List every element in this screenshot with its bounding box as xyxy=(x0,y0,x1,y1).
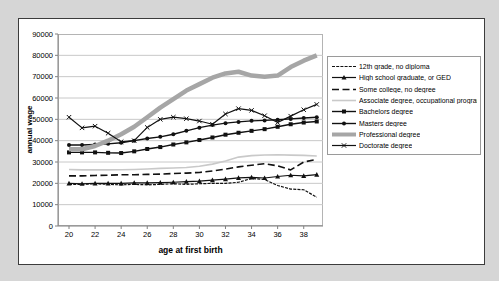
data-point-marker xyxy=(197,126,201,130)
legend-line-icon xyxy=(332,141,356,150)
data-point-marker xyxy=(184,129,188,133)
data-point-marker xyxy=(342,121,346,125)
legend-item-doctorate-degree: Doctorate degree xyxy=(332,140,477,151)
data-point-marker xyxy=(80,143,84,147)
chart-legend: 12th grade, no diplomaHigh school gradua… xyxy=(327,56,481,155)
data-point-marker xyxy=(315,115,319,119)
x-tick-label: 30 xyxy=(188,230,210,239)
data-point-marker xyxy=(302,116,306,120)
data-point-marker xyxy=(67,143,71,147)
data-point-marker xyxy=(237,120,241,124)
data-point-marker xyxy=(250,119,254,123)
legend-label: Masters degree xyxy=(359,120,407,127)
legend-line-icon xyxy=(332,119,356,128)
legend-item-some-college-no-degree: Some college, no degree xyxy=(332,84,477,95)
x-tick-label: 32 xyxy=(214,230,236,239)
y-tick-label: 90000 xyxy=(19,30,53,39)
data-point-marker xyxy=(158,145,162,149)
data-point-marker xyxy=(171,132,175,136)
data-point-marker xyxy=(263,127,267,131)
x-tick-label: 36 xyxy=(267,230,289,239)
data-point-marker xyxy=(223,121,227,125)
data-point-marker xyxy=(145,125,149,129)
x-tick-label: 20 xyxy=(58,230,80,239)
data-point-marker xyxy=(276,125,280,129)
data-point-marker xyxy=(132,149,136,153)
legend-item-bachelors-degree: Bachelors degree xyxy=(332,106,477,117)
x-tick-label: 38 xyxy=(293,230,315,239)
data-point-marker xyxy=(184,140,188,144)
legend-label: 12th grade, no diploma xyxy=(359,63,430,70)
data-point-marker xyxy=(145,137,149,141)
legend-item-masters-degree: Masters degree xyxy=(332,117,477,128)
data-point-marker xyxy=(223,133,227,137)
data-point-marker xyxy=(250,129,254,133)
y-tick-label: 80000 xyxy=(19,51,53,60)
legend-line-icon xyxy=(332,85,356,94)
data-point-marker xyxy=(237,131,241,135)
data-point-marker xyxy=(158,135,162,139)
legend-label: Some college, no degree xyxy=(359,86,436,93)
data-point-marker xyxy=(145,147,149,151)
data-point-marker xyxy=(315,119,319,123)
data-point-marker xyxy=(93,150,97,154)
y-tick-label: 0 xyxy=(19,222,53,231)
legend-line-icon xyxy=(332,62,356,71)
legend-item-professional-degree: Professional degree xyxy=(332,129,477,140)
data-point-marker xyxy=(302,121,306,125)
x-tick-label: 22 xyxy=(84,230,106,239)
y-tick-label: 50000 xyxy=(19,115,53,124)
legend-label: Associate degree, occupational program xyxy=(359,97,477,104)
legend-label: Professional degree xyxy=(359,131,420,138)
data-point-marker xyxy=(119,151,123,155)
x-tick-label: 34 xyxy=(241,230,263,239)
legend-line-icon xyxy=(332,73,356,82)
chart-canvas: annual wage 0100002000030000400005000060… xyxy=(18,18,485,265)
legend-label: High school graduate, or GED xyxy=(359,74,451,81)
series-doctorate-degree xyxy=(67,102,319,144)
y-tick-label: 70000 xyxy=(19,72,53,81)
legend-label: Bachelors degree xyxy=(359,108,413,115)
series-bachelors-degree xyxy=(67,119,319,155)
data-point-marker xyxy=(106,151,110,155)
legend-label: Doctorate degree xyxy=(359,142,412,149)
legend-line-icon xyxy=(332,130,356,139)
legend-line-icon xyxy=(332,107,356,116)
data-point-marker xyxy=(197,138,201,142)
y-tick-label: 20000 xyxy=(19,179,53,188)
x-tick-label: 28 xyxy=(162,230,184,239)
data-point-marker xyxy=(67,115,71,119)
data-point-marker xyxy=(106,131,110,135)
y-tick-label: 10000 xyxy=(19,200,53,209)
plot-area xyxy=(58,34,323,226)
data-point-marker xyxy=(289,122,293,126)
legend-line-icon xyxy=(332,96,356,105)
x-tick-label: 26 xyxy=(136,230,158,239)
legend-item-high-school-graduate-or-ged: High school graduate, or GED xyxy=(332,72,477,83)
y-tick-label: 30000 xyxy=(19,158,53,167)
data-point-marker xyxy=(210,135,214,139)
y-tick-label: 40000 xyxy=(19,136,53,145)
legend-item-12th-grade-no-diploma: 12th grade, no diploma xyxy=(332,61,477,72)
x-axis-title: age at first birth xyxy=(58,245,323,255)
x-tick-label: 24 xyxy=(110,230,132,239)
y-tick-label: 60000 xyxy=(19,94,53,103)
data-point-marker xyxy=(263,118,267,122)
data-point-marker xyxy=(171,143,175,147)
legend-item-associate-degree-occupational-program: Associate degree, occupational program xyxy=(332,95,477,106)
data-point-marker xyxy=(342,110,346,114)
desktop-background: { "page": { "background": "#d6d6d6", "fr… xyxy=(0,0,499,281)
